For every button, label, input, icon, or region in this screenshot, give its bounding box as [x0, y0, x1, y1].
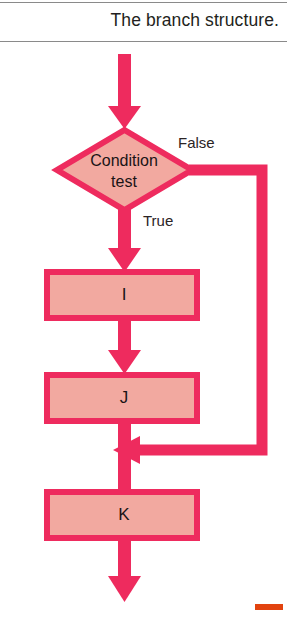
box-k-label: K — [118, 505, 130, 524]
edge-label-false: False — [178, 134, 215, 151]
node-box-k: K — [47, 492, 197, 538]
condition-label-line1: Condition — [90, 152, 158, 169]
box-j-label: J — [120, 388, 129, 407]
edge-entry-to-condition — [108, 54, 141, 129]
figure-title: The branch structure. — [0, 10, 279, 31]
node-box-j: J — [47, 375, 197, 421]
node-condition-test: Condition test — [57, 130, 192, 210]
flowchart-canvas: Condition test True False I J — [0, 44, 287, 617]
node-box-i: I — [47, 272, 197, 318]
edge-i-to-j — [108, 316, 141, 374]
edge-exit — [108, 536, 141, 602]
title-divider-rule — [0, 41, 287, 42]
figure-page: The branch structure. Condition test Tru… — [0, 0, 287, 617]
condition-label-line2: test — [111, 173, 137, 190]
edge-label-true: True — [143, 212, 173, 229]
edge-condition-true-to-i: True — [108, 208, 173, 272]
top-divider-rule — [0, 2, 287, 3]
box-i-label: I — [122, 285, 127, 304]
corner-color-mark — [255, 604, 283, 610]
